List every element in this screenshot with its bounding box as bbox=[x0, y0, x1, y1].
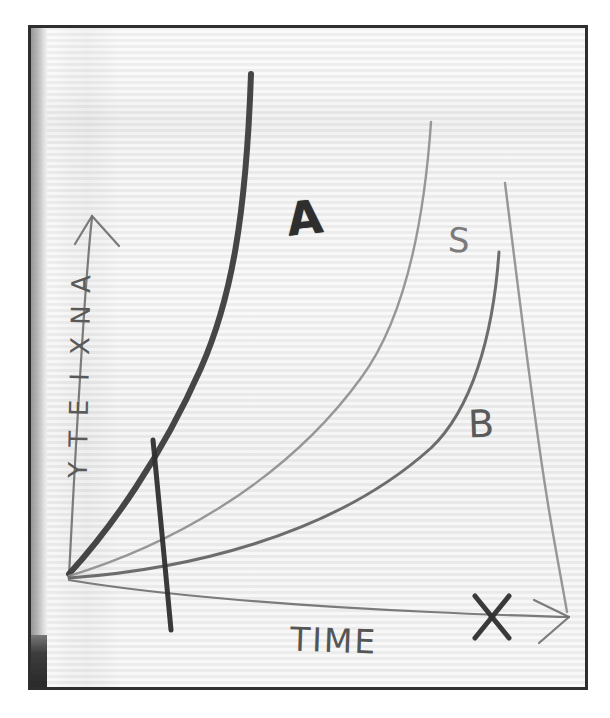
x-axis-arrowhead-upper bbox=[534, 600, 569, 617]
y-axis-arrowhead-right bbox=[92, 216, 119, 246]
y-axis-label-glyph: A bbox=[66, 270, 97, 297]
hand-drawn-chart bbox=[31, 28, 585, 687]
y-axis-label-glyph: X bbox=[65, 332, 96, 359]
x-axis-label: TIME bbox=[289, 619, 378, 661]
paper-frame: A S B TIME ANXIETY bbox=[28, 25, 588, 690]
curve-b-label: B bbox=[467, 402, 496, 447]
y-axis-label-glyph: N bbox=[65, 301, 96, 328]
curve-a-label: A bbox=[284, 189, 326, 247]
y-axis-label: ANXIETY bbox=[65, 268, 95, 485]
x-axis-arrowhead-lower bbox=[539, 617, 569, 643]
y-axis-label-glyph: E bbox=[64, 394, 95, 421]
curve-b bbox=[69, 252, 499, 578]
y-axis-label-glyph: I bbox=[64, 363, 95, 390]
slash-mark bbox=[153, 440, 171, 630]
y-axis-label-glyph: Y bbox=[63, 456, 94, 483]
x-axis-line bbox=[69, 580, 567, 617]
curve-s-label: S bbox=[447, 219, 472, 260]
screenshot-root: A S B TIME ANXIETY bbox=[0, 0, 610, 718]
y-axis-label-glyph: T bbox=[63, 425, 94, 452]
curve-descending-tail bbox=[505, 183, 567, 612]
